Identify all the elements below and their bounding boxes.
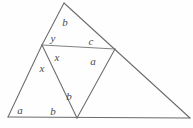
segment-long-right-edge — [64, 3, 190, 118]
angle-label-b-bottom: b — [50, 106, 56, 117]
angle-label-a-bottom: a — [17, 105, 23, 116]
angle-label-x-inner: x — [54, 52, 59, 63]
figure-strokes — [8, 3, 190, 118]
angle-label-b-top: b — [62, 17, 68, 28]
angle-label-a-right: a — [90, 56, 96, 67]
segment-horizontal-crossbar — [42, 45, 115, 49]
angle-label-y: y — [50, 33, 55, 44]
segment-left-outer-edge — [8, 45, 42, 117]
geometry-figure: b y c x a x b a b — [0, 0, 193, 128]
segment-baseline — [8, 117, 190, 118]
angle-label-x-left: x — [39, 63, 44, 74]
angle-label-b-middle: b — [66, 91, 72, 102]
figure-canvas — [0, 0, 193, 128]
angle-label-c: c — [88, 36, 93, 47]
